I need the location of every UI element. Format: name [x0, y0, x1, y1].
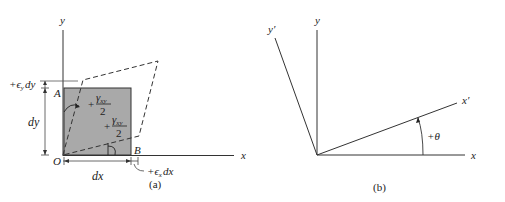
dy-arrow-bottom [43, 150, 47, 155]
shear-lower-sign: + [104, 120, 110, 132]
y-prime-label: y′ [267, 23, 276, 35]
x-prime-axis [317, 103, 457, 155]
dy-arrow-top [43, 88, 47, 93]
shear-upper-sign: + [88, 98, 94, 110]
ex-leader [134, 164, 144, 171]
shear-lower-denominator: 2 [116, 127, 122, 139]
figure-b: y y′ x′ x +θ (b) [267, 14, 476, 194]
y-axis-label-b: y [314, 14, 320, 26]
figure-a: y x O A B dy dx +ϵydy +ϵxdx (a) + γxy 2 … [9, 14, 246, 191]
y-axis-label-a: y [59, 14, 65, 26]
corner-b-label: B [134, 144, 141, 156]
ey-arrow-top [43, 81, 47, 85]
theta-label: +θ [427, 130, 440, 142]
corner-a-label: A [53, 87, 61, 99]
dx-arrow-left [64, 159, 69, 163]
shear-upper-denominator: 2 [100, 105, 106, 117]
strain-transformation-figure: y x O A B dy dx +ϵydy +ϵxdx (a) + γxy 2 … [0, 0, 505, 202]
strain-x-label: +ϵxdx [147, 165, 173, 179]
x-axis-label-b: x [470, 149, 476, 161]
origin-label: O [53, 155, 61, 167]
caption-b: (b) [373, 181, 386, 194]
dx-label: dx [92, 169, 104, 183]
caption-a: (a) [149, 178, 162, 191]
theta-arc [418, 118, 423, 155]
x-axis-label-a: x [240, 149, 246, 161]
dy-label: dy [28, 115, 40, 129]
dx-arrow-right [126, 159, 131, 163]
y-prime-axis [275, 38, 317, 155]
strain-y-label: +ϵydy [9, 78, 35, 92]
x-prime-label: x′ [461, 94, 470, 106]
